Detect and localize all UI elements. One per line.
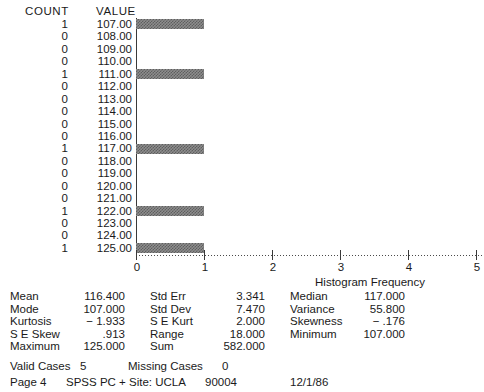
axis-title: Histogram Frequency <box>0 276 484 288</box>
statistic-label: Variance <box>290 303 335 316</box>
statistic-row: Mean116.400Std Err3.341Median117.000 <box>0 290 484 303</box>
axis-tick-label: 2 <box>263 261 283 273</box>
row-count-cell: 0 <box>22 30 68 42</box>
row-bar-track <box>136 180 484 192</box>
row-count-cell: 0 <box>22 155 68 167</box>
row-value-cell: 121.00 <box>78 192 132 204</box>
row-count-cell: 0 <box>22 55 68 67</box>
row-count-cell: 0 <box>22 43 68 55</box>
site-label: SPSS PC + Site: UCLA <box>66 374 186 390</box>
row-value-cell: 112.00 <box>78 80 132 92</box>
histogram-bar <box>136 144 204 154</box>
row-value-cell: 122.00 <box>78 205 132 217</box>
row-bar-track <box>136 142 484 154</box>
row-count-cell: 1 <box>22 68 68 80</box>
histogram-row: 0108.00 <box>0 30 484 42</box>
axis-tick-label: 0 <box>127 261 147 273</box>
row-bar-track <box>136 167 484 179</box>
statistic-value: 582.000 <box>195 340 265 353</box>
row-bar-track <box>136 30 484 42</box>
row-value-cell: 113.00 <box>78 93 132 105</box>
histogram-row: 0124.00 <box>0 229 484 241</box>
histogram-row: 0110.00 <box>0 55 484 67</box>
axis-tick-label: 4 <box>399 261 419 273</box>
row-value-cell: 110.00 <box>78 55 132 67</box>
statistic-value: .913 <box>55 328 125 341</box>
statistic-row: Maximum125.000Sum582.000 <box>0 340 484 353</box>
column-header-count: COUNT <box>25 5 69 17</box>
histogram-bar <box>136 19 204 29</box>
row-bar-track <box>136 55 484 67</box>
histogram-row: 0114.00 <box>0 105 484 117</box>
statistic-value: 116.400 <box>55 290 125 303</box>
row-bar-track <box>136 68 484 80</box>
statistic-row: S E Skew.913Range18.000Minimum107.000 <box>0 328 484 341</box>
row-bar-track <box>136 105 484 117</box>
axis-dotted-line <box>136 255 484 256</box>
statistic-label: Std Dev <box>150 303 191 316</box>
row-count-cell: 0 <box>22 192 68 204</box>
row-bar-track <box>136 43 484 55</box>
statistic-value: 107.000 <box>335 328 405 341</box>
axis-tick <box>476 250 477 260</box>
axis-title-label: Histogram Frequency <box>315 276 425 288</box>
histogram-panel: COUNT VALUE 1107.000108.000109.000110.00… <box>0 0 484 252</box>
row-count-cell: 0 <box>22 167 68 179</box>
histogram-row: 1107.00 <box>0 18 484 30</box>
statistic-value: 55.800 <box>335 303 405 316</box>
statistic-value: 2.000 <box>195 315 265 328</box>
report-footer: Valid Cases 5 Missing Cases 0 Page 4 SPS… <box>0 358 484 392</box>
statistic-label: S E Skew <box>10 328 60 341</box>
histogram-row: 0121.00 <box>0 192 484 204</box>
row-count-cell: 1 <box>22 205 68 217</box>
histogram-row: 0115.00 <box>0 118 484 130</box>
statistic-row: Mode107.000Std Dev7.470Variance55.800 <box>0 303 484 316</box>
statistic-label: Sum <box>150 340 174 353</box>
histogram-row: 0119.00 <box>0 167 484 179</box>
statistic-value: − .176 <box>335 315 405 328</box>
statistic-value: 7.470 <box>195 303 265 316</box>
row-bar-track <box>136 155 484 167</box>
row-count-cell: 0 <box>22 229 68 241</box>
histogram-row: 1117.00 <box>0 142 484 154</box>
histogram-row: 0120.00 <box>0 180 484 192</box>
page-number-label: Page 4 <box>10 374 46 390</box>
row-value-cell: 123.00 <box>78 217 132 229</box>
row-bar-track <box>136 217 484 229</box>
row-count-cell: 0 <box>22 105 68 117</box>
statistic-label: S E Kurt <box>150 315 193 328</box>
axis-tick-label: 1 <box>195 261 215 273</box>
row-value-cell: 108.00 <box>78 30 132 42</box>
row-count-cell: 0 <box>22 118 68 130</box>
statistic-label: Std Err <box>150 290 186 303</box>
row-value-cell: 116.00 <box>78 130 132 142</box>
statistic-row: Kurtosis− 1.933S E Kurt2.000Skewness− .1… <box>0 315 484 328</box>
missing-cases-value: 0 <box>222 358 228 374</box>
statistic-value: 3.341 <box>195 290 265 303</box>
axis-tick-label: 3 <box>331 261 351 273</box>
row-value-cell: 124.00 <box>78 229 132 241</box>
histogram-bar <box>136 69 204 79</box>
histogram-row: 1122.00 <box>0 205 484 217</box>
missing-cases-label: Missing Cases <box>128 358 203 374</box>
page-line: Page 4 SPSS PC + Site: UCLA 90004 12/1/8… <box>0 374 484 390</box>
row-value-cell: 109.00 <box>78 43 132 55</box>
axis-tick-label: 5 <box>467 261 484 273</box>
row-bar-track <box>136 205 484 217</box>
histogram-row: 0118.00 <box>0 155 484 167</box>
statistic-label: Minimum <box>290 328 337 341</box>
report-date-label: 12/1/86 <box>290 374 328 390</box>
row-value-cell: 115.00 <box>78 118 132 130</box>
histogram-bar <box>136 206 204 216</box>
statistics-table: Mean116.400Std Err3.341Median117.000Mode… <box>0 290 484 348</box>
row-bar-track <box>136 192 484 204</box>
statistic-label: Maximum <box>10 340 60 353</box>
histogram-row: 1111.00 <box>0 68 484 80</box>
statistic-value: − 1.933 <box>55 315 125 328</box>
valid-cases-value: 5 <box>80 358 86 374</box>
column-header-value: VALUE <box>96 5 136 17</box>
statistic-value: 125.000 <box>55 340 125 353</box>
row-bar-track <box>136 80 484 92</box>
row-bar-track <box>136 93 484 105</box>
row-bar-track <box>136 130 484 142</box>
